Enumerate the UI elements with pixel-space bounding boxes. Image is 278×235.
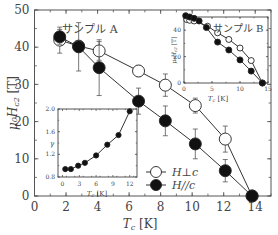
x-tick-label: 3 [77, 180, 81, 187]
filled-circle-marker [133, 95, 145, 107]
filled-circle-marker [73, 41, 85, 53]
y-tick-label: 2.0 [45, 105, 55, 112]
sample-a-label: サンプル A [62, 23, 118, 36]
y-tick-label: 40 [14, 40, 29, 54]
open-circle-marker [226, 36, 232, 42]
legend-par-label: H//c [171, 179, 195, 192]
inset-gamma: 0369120.81.21.62.0γTc [K] [45, 105, 137, 198]
y-tick-label: 0 [177, 79, 181, 86]
filled-circle-marker [196, 18, 202, 24]
gamma-y-label: γ [50, 140, 55, 148]
main-y-label: μ₀Hc2 [T] [6, 76, 21, 130]
filled-circle-marker [93, 153, 98, 158]
inset-b-x-label: Tc [K] [208, 95, 229, 103]
filled-circle-marker [93, 62, 105, 74]
x-tick-label: 0 [61, 180, 65, 187]
y-tick-label: 1.2 [45, 150, 55, 157]
open-circle-marker [133, 65, 145, 77]
legend-filled-marker-icon [151, 180, 162, 191]
filled-circle-marker [127, 109, 132, 114]
main-x-label: Tc [K] [123, 217, 158, 232]
x-tick-label: 14 [248, 200, 264, 214]
x-tick-label: 10 [185, 200, 200, 214]
legend-perp-label: H⊥c [171, 166, 198, 179]
x-tick-label: 10 [236, 85, 244, 92]
x-tick-label: 8 [157, 200, 165, 214]
filled-circle-marker [215, 39, 221, 45]
y-tick-label: 40 [173, 26, 181, 33]
filled-circle-marker [226, 47, 232, 53]
filled-circle-marker [159, 115, 171, 127]
filled-circle-marker [105, 142, 110, 147]
y-tick-label: 50 [14, 3, 29, 17]
x-tick-label: 9 [111, 180, 115, 187]
filled-circle-marker [248, 68, 254, 74]
chart-figure: 0246810121401020304050サンプル A 05101502040… [0, 0, 278, 235]
y-tick-label: 0 [22, 189, 30, 203]
gamma-x-label: Tc [K] [87, 190, 108, 198]
x-tick-label: 12 [126, 180, 134, 187]
filled-circle-marker [246, 190, 258, 202]
filled-circle-marker [76, 163, 81, 168]
filled-circle-marker [237, 57, 243, 63]
filled-circle-marker [68, 166, 73, 171]
x-tick-label: 5 [210, 85, 214, 92]
x-tick-label: 15 [264, 85, 272, 92]
x-tick-label: 12 [216, 200, 231, 214]
series-line [65, 111, 129, 169]
legend-open-marker-icon [151, 167, 162, 178]
chart-svg: 0246810121401020304050サンプル A 05101502040… [0, 0, 278, 235]
filled-circle-marker [82, 160, 87, 165]
x-tick-label: 0 [31, 200, 39, 214]
x-tick-label: 2 [62, 200, 70, 214]
open-circle-marker [189, 100, 201, 112]
open-circle-marker [248, 58, 254, 64]
sample-b-label: サンプル B [213, 23, 264, 34]
filled-circle-marker [63, 166, 68, 171]
x-tick-label: 6 [125, 200, 133, 214]
open-circle-marker [159, 79, 171, 91]
y-tick-label: 10 [14, 152, 29, 166]
filled-circle-marker [203, 25, 209, 31]
y-tick-label: 1.6 [45, 128, 55, 135]
filled-circle-marker [259, 80, 265, 86]
inset-b-y-label: μ₀Hc2 [T] [170, 37, 178, 64]
filled-circle-marker [189, 138, 201, 150]
x-tick-label: 4 [94, 200, 102, 214]
x-tick-label: 6 [94, 180, 98, 187]
y-tick-label: 0.8 [45, 173, 55, 180]
open-circle-marker [237, 45, 243, 51]
legend: H⊥cH//c [146, 166, 198, 192]
inset-sample-b: 05101502040サンプル BTc [K]μ₀Hc2 [T] [170, 13, 272, 103]
open-circle-marker [219, 133, 231, 145]
filled-circle-marker [219, 165, 231, 177]
filled-circle-marker [116, 132, 121, 137]
x-tick-label: 0 [182, 85, 186, 92]
